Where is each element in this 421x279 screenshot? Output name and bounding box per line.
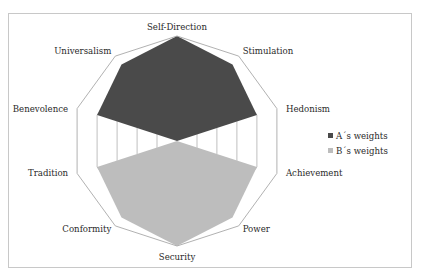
axis-label-hedonism: Hedonism xyxy=(286,104,330,114)
axis-label-stimulation: Stimulation xyxy=(243,46,294,56)
axis-label-power: Power xyxy=(243,224,271,234)
axis-label-self-direction: Self-Direction xyxy=(147,22,208,32)
axis-label-benevolence: Benevolence xyxy=(13,104,68,114)
axis-label-security: Security xyxy=(159,252,196,262)
legend-label-b: B´s weights xyxy=(336,146,388,156)
chart-legend: A´s weights B´s weights xyxy=(328,128,388,158)
axis-label-tradition: Tradition xyxy=(28,168,69,178)
axis-label-conformity: Conformity xyxy=(62,224,111,234)
legend-item-a[interactable]: A´s weights xyxy=(328,128,388,143)
radar-series xyxy=(97,36,257,246)
legend-item-b[interactable]: B´s weights xyxy=(328,143,388,158)
series-a-area[interactable] xyxy=(97,36,257,141)
axis-label-universalism: Universalism xyxy=(54,46,111,56)
legend-swatch-a-icon xyxy=(328,133,333,138)
legend-swatch-b-icon xyxy=(328,148,333,153)
axis-label-achievement: Achievement xyxy=(285,168,343,178)
series-b-area[interactable] xyxy=(97,141,257,246)
legend-label-a: A´s weights xyxy=(336,131,388,141)
